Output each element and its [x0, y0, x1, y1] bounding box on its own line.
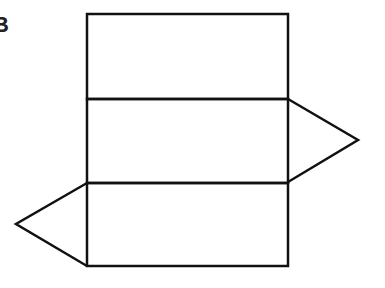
- left-triangle-face: [16, 183, 87, 266]
- top-rectangle-face: [87, 14, 288, 99]
- right-triangle-face: [288, 99, 358, 182]
- prism-net-diagram: [0, 0, 385, 288]
- middle-rectangle-face: [87, 99, 288, 183]
- bottom-rectangle-face: [87, 183, 288, 266]
